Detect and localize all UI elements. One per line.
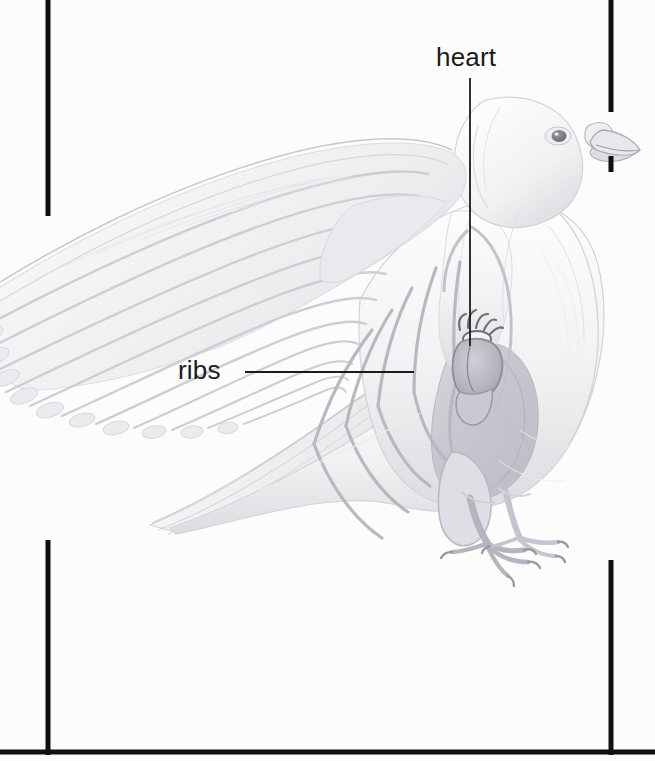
figure-canvas: heart ribs: [0, 0, 655, 761]
eye-group: [545, 127, 571, 145]
bird-anatomy-illustration: [0, 0, 655, 761]
label-heart: heart: [436, 42, 496, 73]
label-ribs: ribs: [178, 355, 221, 386]
eye-highlight: [555, 132, 559, 135]
eye-pupil: [552, 130, 567, 142]
